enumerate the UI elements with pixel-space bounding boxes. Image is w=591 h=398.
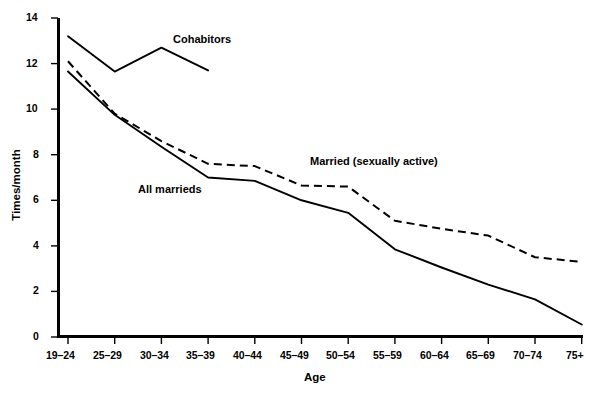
y-tick-label: 14 xyxy=(26,11,37,23)
series-label-all-marrieds: All marrieds xyxy=(138,183,202,195)
x-tick-label: 60–64 xyxy=(420,349,449,361)
chart-plot-area: Times/month xyxy=(0,0,591,398)
x-tick-label: 25–29 xyxy=(93,349,122,361)
x-tick-label: 70–74 xyxy=(513,349,542,361)
x-axis-ticks xyxy=(68,337,582,344)
y-axis-ticks xyxy=(51,18,58,337)
x-tick-label: 45–49 xyxy=(280,349,309,361)
y-tick-label: 12 xyxy=(26,57,37,69)
y-axis-title: Times/month xyxy=(10,149,22,220)
x-tick-label: 55–59 xyxy=(373,349,402,361)
y-tick-label: 8 xyxy=(33,148,39,160)
x-tick-label: 75+ xyxy=(566,349,584,361)
y-tick-label: 4 xyxy=(33,239,39,251)
x-tick-label: 30–34 xyxy=(140,349,169,361)
chart-figure: Times/month xyxy=(0,0,591,398)
y-tick-label: 10 xyxy=(26,102,37,114)
y-tick-label: 2 xyxy=(33,284,39,296)
x-tick-label: 19–24 xyxy=(46,349,75,361)
series-label-cohabitors: Cohabitors xyxy=(173,33,231,45)
x-tick-label: 35–39 xyxy=(186,349,215,361)
series-line-all-marrieds xyxy=(68,72,582,325)
x-tick-label: 65–69 xyxy=(466,349,495,361)
series-label-married-sexually-active: Married (sexually active) xyxy=(310,155,438,167)
x-tick-label: 40–44 xyxy=(233,349,262,361)
x-axis-title: Age xyxy=(304,371,326,383)
y-tick-label: 6 xyxy=(33,193,39,205)
x-tick-label: 50–54 xyxy=(326,349,355,361)
y-tick-label: 0 xyxy=(33,330,39,342)
